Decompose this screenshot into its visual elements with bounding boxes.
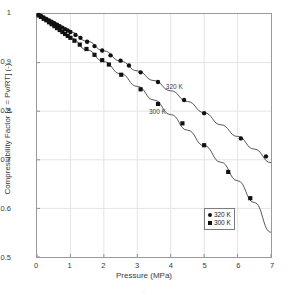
- y-tick-label: 0.7: [1, 155, 11, 164]
- data-point-circle: [138, 70, 142, 74]
- x-axis-title: Pressure (MPa): [0, 271, 288, 280]
- data-point-circle: [118, 58, 122, 62]
- legend-item-300k: 300 K: [208, 219, 231, 227]
- x-tick-label: 7: [270, 261, 274, 270]
- data-point-circle: [182, 98, 186, 102]
- data-point-square: [180, 121, 184, 125]
- data-point-square: [107, 62, 111, 66]
- data-point-circle: [78, 36, 82, 40]
- caption-scrap: .: [0, 287, 288, 295]
- legend-item-320k: 320 K: [208, 211, 231, 219]
- annotation-300k: 300 K: [149, 108, 166, 115]
- data-point-square: [84, 47, 88, 51]
- y-tick-label: 1: [7, 8, 11, 17]
- y-tick-label: 0.9: [1, 57, 11, 66]
- legend-marker-square-icon: [208, 221, 212, 225]
- data-point-square: [119, 73, 123, 77]
- x-tick-label: 3: [135, 261, 139, 270]
- data-point-circle: [68, 30, 72, 34]
- legend-label-300k: 300 K: [214, 219, 231, 227]
- data-point-circle: [156, 80, 160, 84]
- x-tick-label: 1: [68, 261, 72, 270]
- x-tick-label: 2: [101, 261, 105, 270]
- data-point-square: [248, 196, 252, 200]
- data-point-circle: [100, 48, 104, 52]
- data-point-square: [92, 53, 96, 57]
- data-point-square: [202, 143, 206, 147]
- data-point-square: [72, 39, 76, 43]
- x-tick-label: 5: [202, 261, 206, 270]
- x-tick-label: 4: [169, 261, 173, 270]
- data-point-circle: [264, 154, 268, 158]
- data-point-circle: [202, 111, 206, 115]
- data-point-circle: [73, 33, 77, 37]
- y-axis-title-wrap: Compressibility Factor [z = Pv/RT] (-): [0, 0, 14, 258]
- data-point-circle: [92, 44, 96, 48]
- annotation-320k: 320 K: [166, 83, 183, 90]
- fit-curve-300k: [37, 14, 271, 232]
- data-point-circle: [127, 63, 131, 67]
- data-point-square: [156, 102, 160, 106]
- data-point-circle: [85, 40, 89, 44]
- data-point-square: [139, 87, 143, 91]
- y-tick-label: 0.5: [1, 253, 11, 262]
- legend-marker-circle-icon: [208, 213, 212, 217]
- legend-label-320k: 320 K: [214, 211, 231, 219]
- figure-compressibility-chart: Compressibility Factor [z = Pv/RT] (-) 0…: [0, 0, 288, 295]
- x-tick-label: 0: [34, 261, 38, 270]
- y-axis-title: Compressibility Factor [z = Pv/RT] (-): [3, 63, 12, 194]
- data-point-circle: [239, 136, 243, 140]
- data-point-square: [100, 58, 104, 62]
- plot-area: 320 K300 K 320 K 300 K: [36, 13, 272, 258]
- data-point-square: [226, 170, 230, 174]
- series-320k: [36, 13, 268, 159]
- x-tick-label: 6: [236, 261, 240, 270]
- series-300k: [37, 13, 253, 200]
- data-layer: [37, 14, 271, 257]
- y-tick-label: 0.8: [1, 106, 11, 115]
- data-point-square: [68, 36, 72, 40]
- legend: 320 K 300 K: [204, 208, 235, 230]
- data-point-circle: [108, 53, 112, 57]
- y-tick-label: 0.6: [1, 204, 11, 213]
- data-point-square: [78, 43, 82, 47]
